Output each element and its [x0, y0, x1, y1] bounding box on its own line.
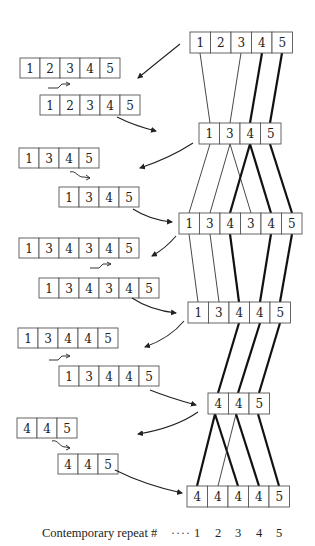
- repeat-cell-label: 4: [235, 306, 243, 320]
- lineage-line-thick: [280, 234, 292, 302]
- repeat-number: 2: [215, 526, 221, 541]
- repeat-cell-label: 1: [194, 306, 202, 320]
- right-level-box-4: 13445: [188, 302, 291, 323]
- shift-right-icon: [90, 262, 111, 268]
- arrow-down-left-icon: [145, 321, 184, 347]
- repeat-cell-label: 5: [63, 422, 71, 436]
- left-step-1-after: 12345: [40, 95, 140, 115]
- repeat-cell-label: 3: [247, 217, 255, 231]
- repeat-cell-label: 4: [258, 36, 266, 50]
- left-step-3-after: 134345: [39, 278, 159, 298]
- repeat-cell-label: 4: [85, 282, 93, 296]
- repeat-cell-label: 1: [46, 99, 54, 113]
- repeat-cell-label: 5: [278, 36, 286, 50]
- lineage-line: [189, 234, 198, 302]
- repeat-cell-label: 4: [65, 242, 73, 256]
- repeat-cell-label: 5: [125, 191, 133, 205]
- arrow-down-left-icon: [138, 44, 180, 78]
- repeat-cell-label: 4: [246, 127, 254, 141]
- repeat-cell-label: 1: [25, 152, 33, 166]
- repeat-cell-label: 3: [45, 152, 53, 166]
- repeat-cell-label: 4: [43, 422, 51, 436]
- repeat-cell-label: 4: [105, 370, 113, 384]
- lineage-line-thick: [270, 53, 282, 123]
- lineage-line-thick: [258, 414, 279, 486]
- left-step-2-after: 1345: [59, 187, 139, 207]
- repeat-cell-label: 1: [25, 242, 33, 256]
- repeat-cell-label: 4: [255, 490, 263, 504]
- repeat-cell-label: 4: [235, 397, 243, 411]
- repeat-cell-label: 4: [86, 62, 94, 76]
- repeat-cell-label: 4: [256, 306, 264, 320]
- lineage-line-thick: [260, 234, 271, 302]
- shift-sigils: [48, 82, 111, 450]
- repeat-cell-label: 4: [64, 332, 72, 346]
- right-level-box-3: 134345: [179, 213, 302, 234]
- repeat-cell-label: 4: [234, 490, 242, 504]
- lineage-line: [200, 53, 210, 123]
- repeat-cell-label: 5: [104, 458, 112, 472]
- lineage-line-thick: [238, 323, 260, 393]
- repeat-cell-label: 4: [84, 458, 92, 472]
- repeat-cell-label: 1: [45, 282, 53, 296]
- repeat-cell-label: 1: [65, 370, 73, 384]
- repeat-cell-label: 3: [85, 242, 93, 256]
- repeat-cell-label: 1: [205, 127, 213, 141]
- arrow-right-icon: [133, 209, 172, 222]
- repeat-cell-label: 5: [267, 127, 275, 141]
- left-step-4-before: 13445: [18, 328, 118, 348]
- repeat-cell-label: 3: [65, 282, 73, 296]
- right-level-box-5: 445: [208, 393, 270, 414]
- lineage-line-thick: [230, 234, 239, 302]
- repeat-cell-label: 4: [65, 152, 73, 166]
- arrow-right-icon: [132, 298, 176, 313]
- lineage-line: [218, 414, 236, 486]
- repeat-cell-label: 1: [196, 36, 204, 50]
- left-step-5-before: 445: [17, 418, 77, 438]
- right-level-box-6: 44445: [187, 486, 290, 507]
- lineage-lines: [189, 53, 292, 486]
- left-step-3-before: 134345: [19, 238, 139, 258]
- repeat-cell-label: 3: [215, 306, 223, 320]
- repeat-cell-label: 5: [145, 370, 153, 384]
- repeat-cell-label: 3: [237, 36, 245, 50]
- repeat-cell-label: 4: [105, 242, 113, 256]
- repeat-cell-label: 5: [125, 242, 133, 256]
- repeat-number: 1: [194, 526, 200, 541]
- lineage-line: [189, 144, 210, 213]
- lineage-line-thick: [270, 144, 292, 213]
- repeat-cell-label: 5: [288, 217, 296, 231]
- lineage-line-thick: [259, 323, 280, 393]
- repeat-evolution-diagram: 1234513451343451344544544445 12345123451…: [0, 0, 315, 546]
- contemporary-repeat-label: Contemporary repeat #: [42, 526, 157, 541]
- repeat-cell-label: 4: [64, 458, 72, 472]
- repeat-cell-label: 3: [105, 282, 113, 296]
- repeat-cell-label: 3: [85, 370, 93, 384]
- repeat-cell-label: 5: [85, 152, 93, 166]
- lineage-line: [210, 144, 230, 213]
- caption-leader-dots: ····: [171, 526, 191, 541]
- repeat-cell-label: 5: [145, 282, 153, 296]
- repeat-cell-label: 2: [217, 36, 225, 50]
- arrow-right-icon: [150, 390, 196, 405]
- repeat-cell-label: 3: [226, 127, 234, 141]
- shift-right-icon: [49, 354, 70, 360]
- lineage-line-thick: [197, 414, 215, 486]
- lineage-line-thick: [215, 414, 238, 486]
- repeat-cell-label: 3: [44, 332, 52, 346]
- lineage-line: [230, 53, 241, 123]
- lineage-line-thick: [250, 53, 262, 123]
- repeat-cell-label: 5: [106, 62, 114, 76]
- repeat-cell-label: 5: [104, 332, 112, 346]
- repeat-cell-label: 4: [23, 422, 31, 436]
- left-step-1-before: 12345: [20, 58, 120, 78]
- repeat-cell-label: 2: [46, 62, 54, 76]
- repeat-cell-label: 4: [214, 490, 222, 504]
- repeat-cell-label: 4: [226, 217, 234, 231]
- left-column-steps: 1234512345134513451343451343451344513445…: [17, 58, 159, 474]
- wave-right-icon: [52, 441, 70, 450]
- repeat-cell-label: 1: [65, 191, 73, 205]
- arrow-right-icon: [115, 470, 182, 493]
- arrow-right-icon: [117, 117, 156, 131]
- repeat-cell-label: 1: [185, 217, 193, 231]
